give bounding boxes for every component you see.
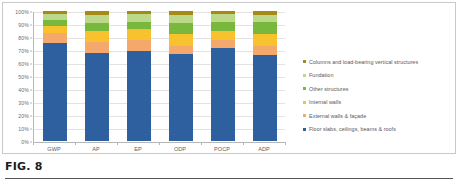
bar-segment — [85, 42, 109, 54]
y-axis-tick-mark — [30, 12, 32, 13]
bar-segment — [169, 23, 193, 35]
bar-segment — [127, 29, 151, 40]
bar-segment — [211, 48, 235, 141]
bar-segment — [127, 11, 151, 14]
y-axis-tick-mark — [30, 129, 32, 130]
legend-swatch-icon — [303, 128, 306, 131]
x-axis-tick-mark — [285, 142, 286, 145]
y-axis-tick-mark — [30, 38, 32, 39]
bar-segment — [127, 51, 151, 141]
gridline — [34, 51, 285, 52]
legend-swatch-icon — [303, 74, 306, 77]
bar-segment — [127, 22, 151, 29]
bar-segment — [43, 20, 67, 26]
x-axis: GWPAPEPODPPOCPADP — [33, 145, 285, 157]
bar-segment — [253, 46, 277, 54]
x-axis-tick-mark — [117, 142, 118, 145]
caption-divider — [5, 178, 453, 179]
figure-container: 100%90%80%70%60%50%40%30%20%10%0% GWPAPE… — [0, 0, 458, 190]
legend-item-label: Columns and load-bearing vertical struct… — [309, 59, 418, 65]
legend-item[interactable]: External walls & façade — [303, 109, 455, 123]
bar-ap — [85, 12, 109, 141]
x-axis-tick-label: EP — [134, 146, 141, 152]
legend-item[interactable]: Other structures — [303, 82, 455, 96]
y-axis-tick-label: 90% — [18, 22, 29, 28]
y-axis-tick-mark — [30, 51, 32, 52]
bar-segment — [85, 15, 109, 23]
gridline — [34, 25, 285, 26]
y-axis-tick-label: 30% — [18, 100, 29, 106]
chart-legend: Columns and load-bearing vertical struct… — [303, 55, 455, 136]
plot-axes — [33, 12, 285, 143]
x-axis-tick-label: ADP — [258, 146, 270, 152]
y-axis-tick-label: 50% — [18, 74, 29, 80]
gridline — [34, 129, 285, 130]
bar-segment — [43, 14, 67, 21]
y-axis-tick-label: 80% — [18, 35, 29, 41]
y-axis-tick-label: 100% — [15, 9, 29, 15]
x-axis-tick-label: AP — [92, 146, 99, 152]
bar-segment — [127, 14, 151, 22]
bar-pocp — [211, 12, 235, 141]
bar-adp — [253, 12, 277, 141]
legend-swatch-icon — [303, 60, 306, 63]
figure-caption: FIG. 8 — [5, 160, 43, 173]
gridline — [34, 116, 285, 117]
legend-item[interactable]: Internal walls — [303, 96, 455, 110]
bar-segment — [211, 22, 235, 30]
bar-segment — [169, 34, 193, 46]
bar-segment — [85, 11, 109, 15]
legend-item-label: Fundation — [309, 72, 333, 78]
bar-segment — [85, 31, 109, 41]
y-axis-tick-mark — [30, 64, 32, 65]
bar-segment — [43, 33, 67, 43]
legend-item[interactable]: Fundation — [303, 69, 455, 83]
bar-segment — [169, 15, 193, 23]
chart-frame: 100%90%80%70%60%50%40%30%20%10%0% GWPAPE… — [2, 2, 456, 154]
legend-item-label: Internal walls — [309, 99, 341, 105]
legend-swatch-icon — [303, 87, 306, 90]
y-axis: 100%90%80%70%60%50%40%30%20%10%0% — [3, 12, 32, 143]
bar-odp — [169, 12, 193, 141]
y-axis-tick-mark — [30, 116, 32, 117]
legend-swatch-icon — [303, 114, 306, 117]
y-axis-tick-mark — [30, 25, 32, 26]
bar-segment — [253, 11, 277, 15]
legend-item-label: Other structures — [309, 86, 348, 92]
x-axis-tick-label: ODP — [174, 146, 186, 152]
bar-segment — [211, 40, 235, 48]
bar-segment — [85, 23, 109, 31]
y-axis-tick-label: 20% — [18, 113, 29, 119]
y-axis-tick-label: 0% — [21, 139, 29, 145]
legend-item[interactable]: Columns and load-bearing vertical struct… — [303, 55, 455, 69]
y-axis-tick-label: 70% — [18, 48, 29, 54]
bar-ep — [127, 12, 151, 141]
bar-segment — [211, 11, 235, 14]
y-axis-tick-mark — [30, 77, 32, 78]
legend-item[interactable]: Floor slabs, ceilings, beams & roofs — [303, 123, 455, 137]
y-axis-tick-label: 40% — [18, 87, 29, 93]
y-axis-tick-mark — [30, 90, 32, 91]
gridline — [34, 12, 285, 13]
bar-segment — [127, 40, 151, 50]
bar-gwp — [43, 12, 67, 141]
y-axis-tick-mark — [30, 103, 32, 104]
plot-area — [33, 12, 285, 143]
gridline — [34, 103, 285, 104]
bar-segment — [85, 53, 109, 141]
bar-segment — [253, 55, 277, 141]
bar-segment — [169, 54, 193, 141]
gridline — [34, 90, 285, 91]
bar-segment — [43, 26, 67, 33]
y-axis-tick-label: 10% — [18, 126, 29, 132]
y-axis-tick-label: 60% — [18, 61, 29, 67]
x-axis-tick-mark — [243, 142, 244, 145]
x-axis-tick-label: GWP — [47, 146, 60, 152]
bar-segment — [169, 46, 193, 54]
legend-item-label: Floor slabs, ceilings, beams & roofs — [309, 126, 396, 132]
x-axis-tick-mark — [159, 142, 160, 145]
bar-segment — [43, 43, 67, 141]
bar-segment — [211, 31, 235, 41]
gridline — [34, 64, 285, 65]
x-axis-tick-mark — [75, 142, 76, 145]
